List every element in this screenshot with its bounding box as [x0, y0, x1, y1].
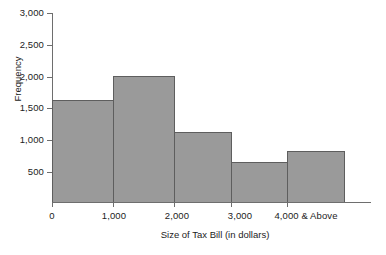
histogram-bar — [231, 162, 288, 203]
y-axis-tick-label-2000: 2,000 — [20, 72, 44, 82]
y-axis-tick-label-1500: 1,500 — [20, 103, 44, 113]
y-axis-tick-2000 — [47, 77, 53, 78]
x-axis-tick-1000 — [113, 203, 114, 207]
x-axis-tick-label-1000: 1,000 — [88, 210, 140, 221]
x-axis-tick-label-0: 0 — [38, 210, 66, 221]
x-axis-tick-2000 — [174, 203, 175, 207]
histogram-bar — [113, 76, 175, 203]
x-axis-tick-4000 — [287, 203, 288, 207]
y-axis-title: Frequency — [13, 39, 23, 119]
y-axis-tick-label-1000: 1,000 — [20, 135, 44, 145]
x-axis-line — [52, 202, 371, 203]
y-axis-tick-label-500: 500 — [28, 167, 44, 177]
histogram-bar — [52, 100, 114, 203]
y-axis-tick-label-2500: 2,500 — [20, 40, 44, 50]
x-axis-tick-label-4000-above: 4,000 & Above — [256, 210, 356, 221]
histogram-bar — [174, 132, 232, 203]
histogram-bar — [287, 151, 345, 204]
x-axis-title: Size of Tax Bill (in dollars) — [0, 229, 386, 240]
x-axis-tick-label-2000: 2,000 — [151, 210, 203, 221]
y-axis-tick-2500 — [47, 45, 53, 46]
x-axis-tick-0 — [52, 203, 53, 207]
y-axis-tick-3000 — [47, 13, 53, 14]
histogram-chart: 3,000 2,500 2,000 1,500 1,000 500 Freque… — [0, 0, 386, 255]
x-axis-tick-3000 — [231, 203, 232, 207]
y-axis-tick-label-3000: 3,000 — [20, 8, 44, 18]
